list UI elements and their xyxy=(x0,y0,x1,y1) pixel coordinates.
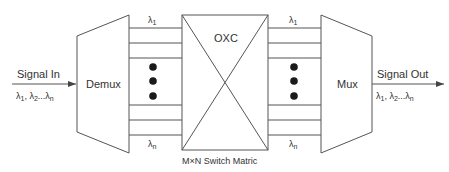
mux-label: Mux xyxy=(337,78,358,90)
left-lambda-n-label: λn xyxy=(148,139,157,150)
signal-out-wavelengths: λ1, λ2...λn xyxy=(376,91,414,102)
switch-matrix-caption: M×N Switch Matric xyxy=(182,156,258,166)
demux-label: Demux xyxy=(86,78,121,90)
left-ellipsis-dots xyxy=(149,63,157,100)
right-lambda-1-label: λ1 xyxy=(289,15,298,26)
oxc-label: OXC xyxy=(214,32,238,44)
signal-in-wavelengths: λ1, λ2...λn xyxy=(16,91,54,102)
signal-in-label: Signal In xyxy=(17,68,60,80)
right-ellipsis-dots xyxy=(290,63,298,100)
oxc-diagram: Signal In λ1, λ2...λn Demux λ1 λn OXC M×… xyxy=(0,0,449,172)
right-lambda-n-label: λn xyxy=(289,139,298,150)
signal-out-label: Signal Out xyxy=(377,68,428,80)
left-lambda-1-label: λ1 xyxy=(148,15,157,26)
